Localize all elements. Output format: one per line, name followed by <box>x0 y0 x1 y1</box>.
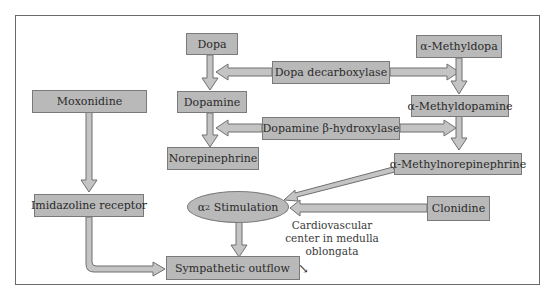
node-alpha-methylnorepinephrine: α-Methylnorepinephrine <box>394 153 522 175</box>
enzyme-dopa-decarboxylase: Dopa decarboxylase <box>272 61 390 84</box>
sympathetic-outflow-label: Sympathetic outflow <box>175 262 290 275</box>
decrease-arrow-icon: ↘ <box>298 261 309 276</box>
enzyme-dopamine-beta-hydroxylase: Dopamine β-hydroxylase <box>262 117 400 140</box>
location-note-line2: center in medulla <box>280 232 384 245</box>
arrow-alpha2-to-sympathetic-outflow <box>231 222 247 257</box>
node-norepinephrine: Norepinephrine <box>167 147 259 170</box>
node-dopa: Dopa <box>186 33 238 55</box>
node-moxonidine: Moxonidine <box>32 90 147 113</box>
alpha2-label: Stimulation <box>210 201 278 214</box>
arrow-dopa-to-dopamine <box>202 55 218 90</box>
alpha2-prefix: α <box>198 201 205 214</box>
arrow-hydroxylase-to-methyldopamine-pathway <box>400 120 456 136</box>
location-note-line1: Cardiovascular <box>280 219 384 232</box>
node-sympathetic-outflow: Sympathetic outflow ↘ <box>166 256 300 280</box>
node-alpha-methyldopa: α-Methyldopa <box>416 35 502 58</box>
location-note-line3: oblongata <box>280 245 384 258</box>
arrow-dopamine-to-norepinephrine <box>202 113 218 147</box>
arrow-imidazoline-to-sympathetic-outflow <box>86 217 165 276</box>
location-note: Cardiovascular center in medulla oblonga… <box>280 219 384 258</box>
arrow-moxonidine-to-imidazoline <box>81 112 97 192</box>
arrow-decarboxylase-to-methyldopa-pathway <box>390 64 459 80</box>
node-alpha2-stimulation: α2 Stimulation <box>187 191 289 223</box>
arrow-methylnorepinephrine-to-alpha2 <box>284 167 395 201</box>
node-clonidine: Clonidine <box>427 196 490 221</box>
arrow-hydroxylase-to-dopamine-pathway <box>216 120 262 136</box>
node-dopamine: Dopamine <box>177 91 247 113</box>
arrow-decarboxylase-to-dopa-pathway <box>216 64 272 80</box>
node-imidazoline-receptor: Imidazoline receptor <box>34 194 144 217</box>
arrow-clonidine-to-alpha2 <box>290 200 427 216</box>
arrow-methyldopamine-to-methylnorepinephrine <box>451 115 467 150</box>
node-alpha-methyldopamine: α-Methyldopamine <box>411 95 509 117</box>
